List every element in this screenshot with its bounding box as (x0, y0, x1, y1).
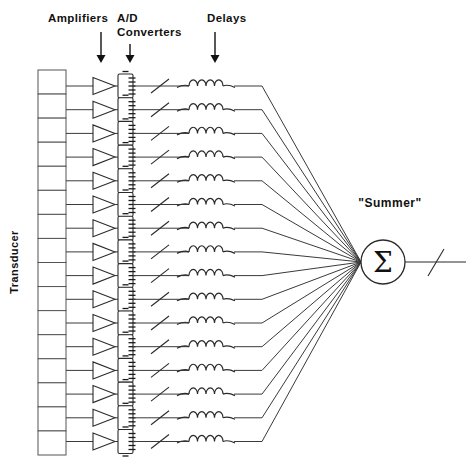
delay-lead-right (223, 227, 235, 229)
transducer-array (38, 70, 66, 455)
transducer-element (38, 118, 66, 142)
transducer-element (38, 94, 66, 118)
delay-lead-right (223, 346, 235, 348)
transducer-element (38, 70, 66, 94)
delay-lead-right (223, 109, 235, 111)
amplifier-icon (93, 362, 115, 379)
amplifier-icon (93, 338, 115, 355)
column-header-delays: Delays (207, 12, 246, 24)
channel-row (66, 262, 361, 314)
delay-coil-icon (189, 246, 223, 252)
delay-coil-icon (189, 293, 223, 299)
summing-feed-wire (262, 262, 361, 370)
transducer-element (38, 335, 66, 359)
transducer-element (38, 263, 66, 287)
amplifier-icon (93, 386, 115, 403)
amplifier-icon (93, 267, 115, 284)
delay-coil-icon (189, 80, 223, 86)
amplifier-icon (93, 315, 115, 332)
summing-feed-wire (262, 262, 361, 347)
delay-coil-icon (189, 127, 223, 133)
delay-lead-right (223, 251, 235, 253)
delay-lead-right (223, 180, 235, 182)
header-arrow-head-delays (211, 55, 220, 63)
sigma-symbol: Σ (373, 246, 393, 279)
summing-feed-wire (262, 262, 361, 442)
delay-lead-right (223, 204, 235, 206)
transducer-element (38, 407, 66, 431)
summing-feed-wire (262, 157, 361, 262)
transducer-element (38, 431, 66, 455)
amplifier-icon (93, 409, 115, 426)
summing-feed-wire (262, 262, 361, 276)
delay-coil-icon (189, 364, 223, 370)
delay-coil-icon (189, 412, 223, 418)
delay-coil-icon (189, 222, 223, 228)
transducer-element (38, 238, 66, 262)
summing-feed-wire (262, 262, 361, 299)
delay-lead-right (223, 393, 235, 395)
header-arrow-head-amplifiers (97, 55, 106, 63)
channel-row (66, 72, 361, 263)
summing-feed-wire (262, 110, 361, 262)
delay-coil-icon (189, 341, 223, 347)
transducer-element (38, 311, 66, 335)
amplifier-icon (93, 101, 115, 118)
channel-row (66, 261, 361, 290)
transducer-element (38, 383, 66, 407)
delay-coil-icon (189, 198, 223, 204)
summing-feed-wire (262, 262, 361, 394)
channel-row (66, 119, 361, 262)
amplifier-icon (93, 291, 115, 308)
delay-lead-right (223, 322, 235, 324)
header-arrow-head-ad-converters (126, 55, 135, 63)
column-header-ad-converters-line2: Converters (117, 26, 182, 38)
amplifier-icon (93, 243, 115, 260)
amplifier-icon (93, 433, 115, 450)
channel-row (66, 237, 361, 266)
delay-lead-right (223, 85, 235, 87)
delay-coil-icon (189, 104, 223, 110)
delay-lead-right (223, 417, 235, 419)
column-headers: Amplifiers A/D Converters Delays (48, 12, 246, 38)
delay-coil-icon (189, 269, 223, 275)
delay-lead-right (223, 156, 235, 158)
transducer-label: Transducer (8, 230, 20, 294)
summing-feed-wire (262, 86, 361, 262)
channel-rows (66, 72, 361, 457)
summer-label: "Summer" (358, 196, 421, 210)
transducer-element (38, 190, 66, 214)
delay-lead-right (223, 441, 235, 443)
transducer-element (38, 166, 66, 190)
delay-coil-icon (189, 388, 223, 394)
block-diagram-canvas: Amplifiers A/D Converters Delays Transdu… (0, 0, 472, 467)
column-header-amplifiers: Amplifiers (48, 12, 108, 24)
amplifier-icon (93, 125, 115, 142)
delay-lead-right (223, 133, 235, 135)
transducer-element (38, 214, 66, 238)
delay-lead-right (223, 275, 235, 277)
transducer-element (38, 142, 66, 166)
delay-coil-icon (189, 151, 223, 157)
summer-node: Σ "Summer" (358, 196, 466, 284)
summing-feed-wire (262, 262, 361, 418)
summing-feed-wire (262, 181, 361, 262)
delay-coil-icon (189, 435, 223, 441)
delay-coil-icon (189, 175, 223, 181)
delay-lead-right (223, 370, 235, 372)
summing-feed-wire (262, 133, 361, 262)
transducer-element (38, 287, 66, 311)
amplifier-icon (93, 172, 115, 189)
summing-feed-wire (262, 262, 361, 323)
amplifier-icon (93, 149, 115, 166)
delay-lead-right (223, 299, 235, 301)
amplifier-icon (93, 220, 115, 237)
delay-coil-icon (189, 317, 223, 323)
signal-chain-svg: Amplifiers A/D Converters Delays Transdu… (0, 0, 472, 467)
channel-row (66, 262, 361, 409)
amplifier-icon (93, 78, 115, 95)
channel-row (66, 214, 361, 262)
column-header-ad-converters-line1: A/D (117, 12, 138, 24)
channel-row (66, 262, 361, 456)
transducer-element (38, 359, 66, 383)
